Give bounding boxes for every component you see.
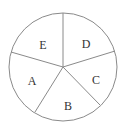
divider-a-b	[35, 67, 63, 112]
pie-diagram-svg: A B C D E	[0, 0, 124, 128]
sector-label-b: B	[64, 99, 72, 113]
sector-label-a: A	[28, 74, 37, 88]
divider-c-d	[63, 51, 115, 67]
sector-label-c: C	[92, 73, 100, 87]
sector-label-e: E	[39, 38, 46, 52]
divider-a-e	[11, 52, 63, 67]
pie-diagram: A B C D E	[0, 0, 124, 128]
sector-label-d: D	[82, 37, 91, 51]
